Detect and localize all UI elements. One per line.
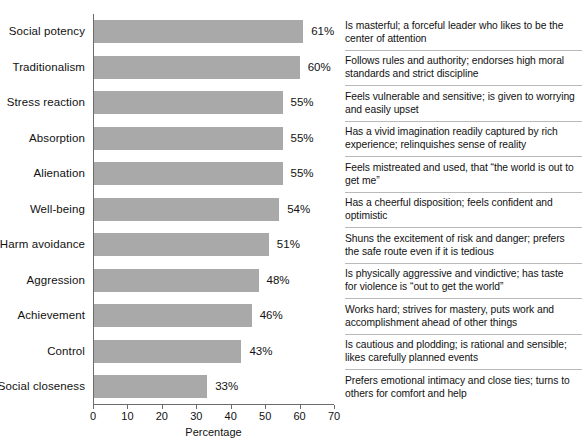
trait-description-text: Works hard; strives for mastery, puts wo… [345, 303, 577, 329]
category-label: Stress reaction [7, 85, 85, 121]
category-label: Control [47, 334, 85, 370]
x-tick-label: 0 [90, 410, 96, 422]
x-axis-title: Percentage [93, 426, 334, 438]
bar-value-label: 46% [260, 298, 283, 334]
category-label: Well-being [30, 192, 85, 228]
bar [94, 340, 241, 363]
chart-row: Social potency61%Is masterful; a forcefu… [0, 14, 582, 50]
x-tick-mark [93, 405, 94, 409]
trait-description-cell: Is cautious and plodding; is rational an… [345, 334, 577, 370]
bar-value-label: 61% [311, 14, 334, 50]
x-tick-mark [127, 405, 128, 409]
chart-row: Achievement46%Works hard; strives for ma… [0, 298, 582, 334]
category-label: Social potency [9, 14, 85, 50]
trait-description-text: Has a vivid imagination readily captured… [345, 125, 577, 151]
bar-value-label: 55% [291, 85, 314, 121]
x-tick-mark [334, 405, 335, 409]
category-label: Social closeness [0, 369, 85, 405]
trait-description-text: Follows rules and authority; endorses hi… [345, 54, 577, 80]
chart-row: Harm avoidance51%Shuns the excitement of… [0, 227, 582, 263]
bar [94, 233, 269, 256]
bar-value-label: 33% [215, 369, 238, 405]
chart-row: Control43%Is cautious and plodding; is r… [0, 334, 582, 370]
chart-row: Stress reaction55%Feels vulnerable and s… [0, 85, 582, 121]
trait-description-text: Is physically aggressive and vindictive;… [345, 267, 577, 293]
bar-value-label: 43% [249, 334, 272, 370]
trait-description-cell: Prefers emotional intimacy and close tie… [345, 369, 577, 405]
x-tick-label: 30 [190, 410, 202, 422]
bar [94, 162, 283, 185]
trait-description-cell: Follows rules and authority; endorses hi… [345, 50, 577, 86]
bar [94, 20, 303, 43]
trait-description-cell: Has a vivid imagination readily captured… [345, 121, 577, 157]
chart-rows: Social potency61%Is masterful; a forcefu… [0, 14, 582, 405]
trait-description-text: Is masterful; a forceful leader who like… [345, 19, 577, 45]
trait-description-text: Feels vulnerable and sensitive; is given… [345, 90, 577, 116]
chart-row: Alienation55%Feels mistreated and used, … [0, 156, 582, 192]
bar-value-label: 60% [308, 50, 331, 86]
x-tick-mark [300, 405, 301, 409]
trait-description-text: Is cautious and plodding; is rational an… [345, 338, 577, 364]
trait-description-cell: Works hard; strives for mastery, puts wo… [345, 298, 577, 334]
trait-description-text: Has a cheerful disposition; feels confid… [345, 196, 577, 222]
category-label: Achievement [17, 298, 85, 334]
chart-row: Social closeness33%Prefers emotional int… [0, 369, 582, 405]
x-tick-label: 10 [121, 410, 133, 422]
bar-value-label: 48% [267, 263, 290, 299]
bar-value-label: 51% [277, 227, 300, 263]
trait-description-text: Shuns the excitement of risk and danger;… [345, 232, 577, 258]
chart-row: Aggression48%Is physically aggressive an… [0, 263, 582, 299]
x-tick-label: 70 [328, 410, 340, 422]
x-tick-label: 20 [156, 410, 168, 422]
x-tick-label: 40 [225, 410, 237, 422]
trait-description-cell: Is physically aggressive and vindictive;… [345, 263, 577, 299]
x-tick-mark [265, 405, 266, 409]
bar [94, 269, 259, 292]
x-tick-mark [196, 405, 197, 409]
x-tick-mark [162, 405, 163, 409]
trait-description-cell: Feels vulnerable and sensitive; is given… [345, 85, 577, 121]
x-tick-label: 60 [293, 410, 305, 422]
bar [94, 375, 207, 398]
trait-description-text: Feels mistreated and used, that “the wor… [345, 161, 577, 187]
bar [94, 127, 283, 150]
personality-traits-bar-chart: Social potency61%Is masterful; a forcefu… [0, 0, 582, 447]
trait-description-cell: Shuns the excitement of risk and danger;… [345, 227, 577, 263]
chart-row: Traditionalism60%Follows rules and autho… [0, 50, 582, 86]
bar-value-label: 55% [291, 156, 314, 192]
category-label: Absorption [29, 121, 85, 157]
bar-value-label: 55% [291, 121, 314, 157]
x-tick-label: 50 [259, 410, 271, 422]
category-label: Harm avoidance [0, 227, 85, 263]
bar [94, 198, 279, 221]
bar [94, 304, 252, 327]
category-label: Traditionalism [12, 50, 85, 86]
chart-row: Well-being54%Has a cheerful disposition;… [0, 192, 582, 228]
bar [94, 56, 300, 79]
chart-row: Absorption55%Has a vivid imagination rea… [0, 121, 582, 157]
bar [94, 91, 283, 114]
trait-description-cell: Has a cheerful disposition; feels confid… [345, 192, 577, 228]
trait-description-cell: Feels mistreated and used, that “the wor… [345, 156, 577, 192]
x-tick-mark [231, 405, 232, 409]
category-label: Aggression [26, 263, 85, 299]
x-axis-ticks: 010203040506070 [0, 405, 582, 423]
trait-description-cell: Is masterful; a forceful leader who like… [345, 14, 577, 50]
trait-description-text: Prefers emotional intimacy and close tie… [345, 374, 577, 400]
category-label: Alienation [33, 156, 85, 192]
bar-value-label: 54% [287, 192, 310, 228]
